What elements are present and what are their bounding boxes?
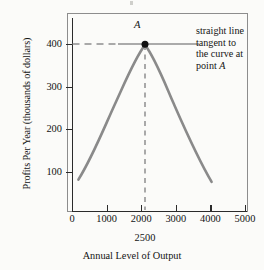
tangent-callout-line-4-prefix: point xyxy=(196,60,219,71)
x-axis-title: Annual Level of Output xyxy=(0,250,264,261)
point-a-label: A xyxy=(134,19,140,30)
point-a-marker xyxy=(142,41,149,48)
peak-x-value-label: 2500 xyxy=(122,232,168,243)
tangent-callout-text: straight line tangent to the curve at po… xyxy=(196,25,262,71)
tangent-callout-line-3: the curve at xyxy=(196,48,262,60)
tangent-callout-line-2: tangent to xyxy=(196,37,262,49)
tangent-callout-line-1: straight line xyxy=(196,25,262,37)
tangent-callout-point-letter: A xyxy=(219,60,225,71)
tangent-callout-line-4: point A xyxy=(196,60,262,72)
profit-curve-figure: Profits Per Year (thousands of dollars) … xyxy=(0,0,264,270)
